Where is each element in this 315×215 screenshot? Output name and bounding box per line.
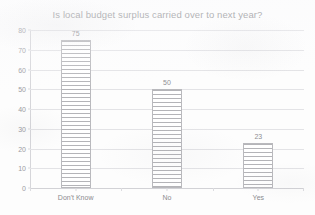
x-axis-tick-mark — [167, 188, 168, 191]
x-axis-category-slot: No — [152, 190, 182, 208]
y-axis-tick-label: 0 — [4, 185, 26, 192]
chart-title: Is local budget surplus carried over to … — [0, 9, 315, 20]
x-axis-separator-tick — [303, 188, 304, 191]
x-axis-separator-tick — [30, 188, 31, 191]
y-axis-tick-labels: 80706050403020100 — [2, 30, 26, 188]
y-axis-tick-label: 20 — [4, 145, 26, 152]
x-axis-tick-mark — [75, 188, 76, 191]
bar-group[interactable]: 50 — [152, 30, 182, 188]
y-axis-tick-label: 70 — [4, 46, 26, 53]
x-axis-category-label: Don't Know — [58, 194, 94, 201]
x-axis-tick-mark — [258, 188, 259, 191]
bar[interactable] — [61, 40, 91, 188]
y-axis-tick-label: 10 — [4, 165, 26, 172]
x-axis-separator-tick — [121, 188, 122, 191]
x-axis-category-label: No — [163, 194, 172, 201]
x-axis-category-labels: Don't KnowNoYes — [30, 190, 304, 210]
x-axis-category-slot: Yes — [243, 190, 273, 208]
bar[interactable] — [243, 143, 273, 188]
y-axis-tick-label: 40 — [4, 106, 26, 113]
y-axis-tick-label: 80 — [4, 27, 26, 34]
x-axis-category-slot: Don't Know — [61, 190, 91, 208]
y-axis-tick-label: 30 — [4, 125, 26, 132]
plot-area: 755023 — [30, 30, 304, 188]
x-axis-separator-tick — [213, 188, 214, 191]
bar-value-label: 23 — [254, 133, 262, 140]
bar-value-label: 75 — [72, 30, 80, 37]
bar-chart: Is local budget surplus carried over to … — [0, 0, 315, 215]
y-axis-tick-label: 50 — [4, 86, 26, 93]
y-axis-tick-label: 60 — [4, 66, 26, 73]
bar[interactable] — [152, 89, 182, 188]
bar-group[interactable]: 75 — [61, 30, 91, 188]
x-axis-category-label: Yes — [253, 194, 264, 201]
bar-group[interactable]: 23 — [243, 30, 273, 188]
bar-value-label: 50 — [163, 79, 171, 86]
